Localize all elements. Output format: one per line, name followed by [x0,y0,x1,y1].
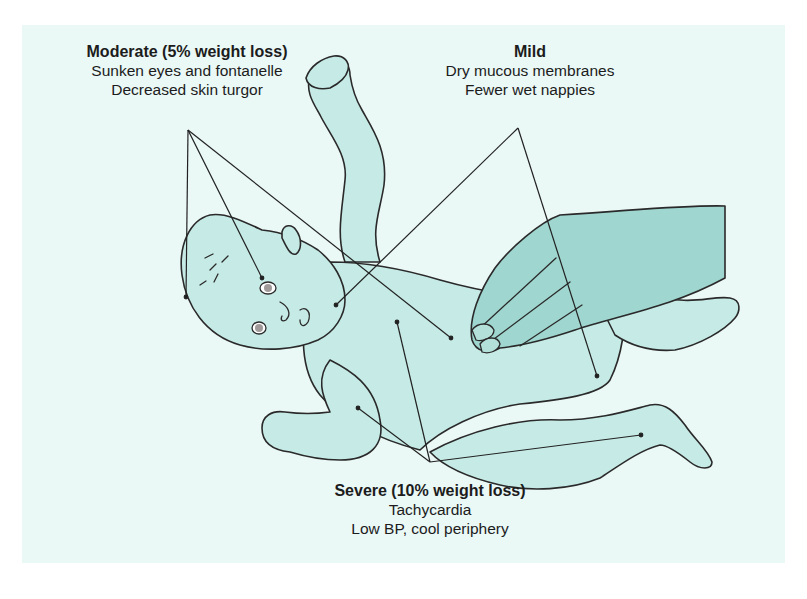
label-moderate-dehydration: Moderate (5% weight loss) Sunken eyes an… [62,42,312,99]
pupil-upper [264,284,272,292]
label-moderate-sign-1: Sunken eyes and fontanelle [62,61,312,80]
label-mild-sign-1: Dry mucous membranes [405,61,655,80]
label-moderate-title: Moderate (5% weight loss) [62,42,312,61]
label-mild-sign-2: Fewer wet nappies [405,80,655,99]
label-mild-dehydration: Mild Dry mucous membranes Fewer wet napp… [405,42,655,99]
label-moderate-sign-2: Decreased skin turgor [62,80,312,99]
label-severe-sign-2: Low BP, cool periphery [300,519,560,538]
pupil-lower [255,324,263,332]
label-mild-title: Mild [405,42,655,61]
label-severe-dehydration: Severe (10% weight loss) Tachycardia Low… [300,481,560,538]
label-severe-title: Severe (10% weight loss) [300,481,560,500]
label-severe-sign-1: Tachycardia [300,500,560,519]
